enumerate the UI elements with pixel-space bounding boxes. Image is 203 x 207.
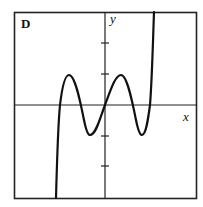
panel-label: D: [21, 16, 30, 31]
y-axis-label: y: [108, 11, 116, 26]
chart: D y x: [0, 0, 203, 207]
x-axis-label: x: [182, 109, 189, 124]
